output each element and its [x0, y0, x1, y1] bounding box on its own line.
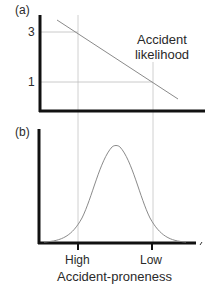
distribution-curve [44, 146, 186, 243]
x-tick-low-label: Low [140, 254, 162, 266]
x-axis-title: Accident-proneness [57, 270, 172, 283]
panel-a-label: (a) [15, 4, 30, 16]
x-tick-high-label: High [65, 254, 90, 266]
panel-b-label: (b) [15, 126, 30, 138]
y-tick-3-label: 3 [28, 26, 35, 38]
curve-label-line1: Accident [132, 32, 192, 47]
y-tick-1-label: 1 [28, 76, 35, 88]
curve-label-line2: likelihood [132, 47, 192, 62]
axis-arrow-stub [200, 242, 202, 245]
curve-label: Accident likelihood [132, 32, 192, 62]
